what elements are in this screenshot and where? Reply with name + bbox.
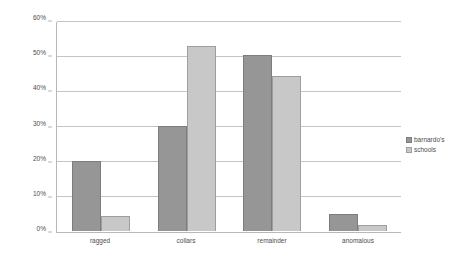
- bars-layer: [58, 22, 401, 231]
- bar[interactable]: [158, 126, 187, 231]
- y-axis-tick-label: 20%: [33, 155, 46, 163]
- plot-area: [56, 22, 401, 233]
- y-axis-tick-mark: [48, 161, 52, 162]
- y-axis-tick-mark: [48, 126, 52, 127]
- bar-group: [58, 22, 144, 231]
- y-axis-tick-mark: [48, 196, 52, 197]
- legend-label: schools: [414, 146, 436, 154]
- bar-group: [144, 22, 230, 231]
- y-axis-tick-label: 10%: [33, 190, 46, 198]
- bar[interactable]: [358, 225, 387, 231]
- legend-item[interactable]: schools: [406, 146, 445, 154]
- gridline: [57, 231, 401, 232]
- legend-swatch-icon: [406, 137, 412, 143]
- bar[interactable]: [272, 76, 301, 231]
- y-axis-tick-label: 30%: [33, 120, 46, 128]
- y-axis-tick-mark: [48, 91, 52, 92]
- bar-chart: 0%10%20%30%40%50%60% raggedcollarsremain…: [0, 0, 465, 266]
- y-axis-tick-label: 0%: [37, 225, 46, 233]
- x-axis: raggedcollarsremainderanomalous: [57, 236, 401, 245]
- bar-group: [315, 22, 401, 231]
- y-axis-tick-mark: [48, 232, 52, 233]
- bar-group: [230, 22, 316, 231]
- legend-item[interactable]: barnardo's: [406, 136, 445, 144]
- x-axis-tick-label: remainder: [229, 236, 315, 245]
- x-axis-tick-label: anomalous: [315, 236, 401, 245]
- bar[interactable]: [329, 214, 358, 231]
- bar[interactable]: [243, 55, 272, 231]
- legend-swatch-icon: [406, 147, 412, 153]
- y-axis-tick-mark: [48, 21, 52, 22]
- x-axis-tick-label: collars: [143, 236, 229, 245]
- bar[interactable]: [72, 161, 101, 231]
- legend-label: barnardo's: [414, 136, 445, 144]
- y-axis-tick-label: 60%: [33, 14, 46, 22]
- x-axis-tick-label: ragged: [57, 236, 143, 245]
- bar[interactable]: [101, 216, 130, 231]
- y-axis-tick-label: 50%: [33, 49, 46, 57]
- y-axis-tick-mark: [48, 56, 52, 57]
- bar[interactable]: [187, 46, 216, 231]
- y-axis-tick-label: 40%: [33, 84, 46, 92]
- y-axis: 0%10%20%30%40%50%60%: [0, 22, 52, 233]
- legend: barnardo'sschools: [406, 136, 445, 154]
